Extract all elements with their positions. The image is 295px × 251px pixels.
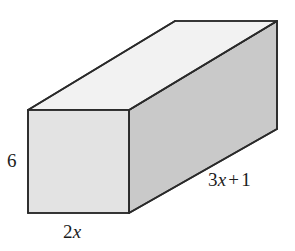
width-variable: x bbox=[73, 221, 82, 242]
width-coefficient: 2 bbox=[63, 221, 73, 242]
length-constant: 1 bbox=[241, 169, 251, 190]
front-face bbox=[28, 110, 129, 213]
prism-figure: 6 2x 3x+1 bbox=[0, 0, 295, 251]
length-coefficient: 3 bbox=[208, 169, 218, 190]
width-dimension-label: 2x bbox=[63, 222, 81, 241]
length-dimension-label: 3x+1 bbox=[208, 170, 251, 189]
height-dimension-label: 6 bbox=[7, 151, 17, 170]
length-operator: + bbox=[226, 169, 241, 190]
height-value: 6 bbox=[7, 150, 17, 171]
prism-drawing bbox=[0, 0, 295, 251]
